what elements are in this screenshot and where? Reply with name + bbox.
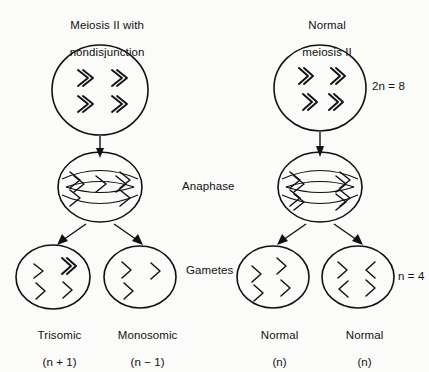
title-left-line1: Meiosis II with xyxy=(70,19,144,31)
ploidy-bottom-label: n = 4 xyxy=(398,270,424,284)
gamete-name-monosomic: Monosomic xyxy=(118,329,178,341)
gamete-formula-monosomic: (n − 1) xyxy=(130,356,164,368)
gamete-name-normal-2: Normal xyxy=(346,329,384,341)
gamete-formula-normal-2: (n) xyxy=(357,356,371,368)
arrow-right-anaphase-to-normal-2 xyxy=(334,224,363,245)
ploidy-top-label: 2n = 8 xyxy=(372,80,405,94)
cell-normal-2 xyxy=(322,246,394,308)
stage-label-anaphase: Anaphase xyxy=(182,180,235,194)
cell-trisomic xyxy=(16,245,90,309)
arrow-right-anaphase-to-normal-1 xyxy=(277,224,306,245)
title-left: Meiosis II with nondisjunction xyxy=(33,5,168,73)
gamete-label-normal-1: Normal (n) xyxy=(230,315,316,372)
arrow-left-anaphase-to-monosomic xyxy=(114,224,143,245)
gamete-name-normal-1: Normal xyxy=(261,329,299,341)
arrow-left-anaphase-to-trisomic xyxy=(57,224,86,245)
chromosomes-left-parent xyxy=(78,70,127,112)
title-left-line2: nondisjunction xyxy=(70,46,145,58)
gamete-name-trisomic: Trisomic xyxy=(38,329,82,341)
stage-label-gametes: Gametes xyxy=(186,264,233,278)
gamete-label-trisomic: Trisomic (n + 1) xyxy=(8,315,98,372)
gamete-formula-trisomic: (n + 1) xyxy=(42,356,76,368)
gamete-formula-normal-1: (n) xyxy=(272,356,286,368)
arrow-right-parent-to-anaphase xyxy=(316,132,324,157)
cell-monosomic xyxy=(104,246,176,308)
gamete-label-monosomic: Monosomic (n − 1) xyxy=(95,315,187,372)
cell-right-anaphase xyxy=(278,152,362,222)
arrow-left-parent-to-anaphase xyxy=(96,136,104,158)
gamete-label-normal-2: Normal (n) xyxy=(315,315,401,372)
cell-normal-1 xyxy=(237,246,309,308)
cell-left-anaphase xyxy=(58,152,142,222)
chromosomes-right-parent xyxy=(299,68,345,110)
title-right-line2: meiosis II xyxy=(302,46,352,58)
title-right-line1: Normal xyxy=(308,19,346,31)
title-right: Normal meiosis II xyxy=(268,5,373,73)
